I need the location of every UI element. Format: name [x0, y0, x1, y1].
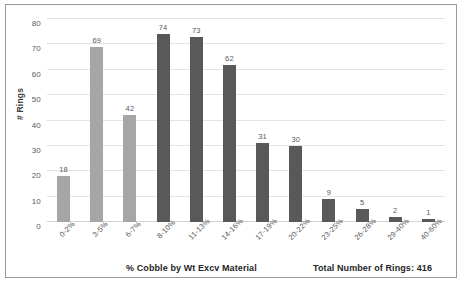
bar-value-label: 2: [393, 206, 397, 215]
plot-area: 01020304050607080 18694274736231309521: [47, 19, 445, 222]
bar-value-label: 74: [159, 23, 168, 32]
bar[interactable]: [123, 115, 136, 222]
total-rings-annotation: Total Number of Rings: 416: [313, 263, 432, 273]
figure-container: # Rings 01020304050607080 18694274736231…: [0, 0, 464, 291]
x-tick-slot: 3-5%: [80, 222, 113, 262]
x-tick-slot: 14-16%: [213, 222, 246, 262]
bar[interactable]: [90, 47, 103, 222]
x-axis-tick-label: 6-7%: [123, 220, 142, 239]
x-axis-tick-label: 3-5%: [90, 220, 109, 239]
bar-slot: 74: [147, 19, 180, 222]
bar-value-label: 31: [258, 132, 267, 141]
bar-value-label: 5: [360, 198, 364, 207]
bar-slot: 73: [180, 19, 213, 222]
chart-frame: # Rings 01020304050607080 18694274736231…: [5, 4, 457, 278]
bar-slot: 69: [80, 19, 113, 222]
bar-value-label: 18: [59, 165, 68, 174]
x-tick-slot: 26-28%: [346, 222, 379, 262]
x-tick-slot: 29-40%: [379, 222, 412, 262]
x-tick-slot: 23-25%: [312, 222, 345, 262]
x-axis-title: % Cobble by Wt Excv Material: [126, 263, 257, 273]
bar-value-label: 73: [192, 26, 201, 35]
bar-slot: 2: [379, 19, 412, 222]
bar-slot: 9: [312, 19, 345, 222]
bar-slot: 18: [47, 19, 80, 222]
bar-value-label: 42: [126, 104, 135, 113]
x-tick-slot: 40-60%: [412, 222, 445, 262]
bar-slot: 30: [279, 19, 312, 222]
bar-slot: 5: [346, 19, 379, 222]
bar[interactable]: [190, 37, 203, 222]
bar[interactable]: [157, 34, 170, 222]
bar-value-label: 30: [291, 135, 300, 144]
bar-value-label: 9: [327, 188, 331, 197]
bar[interactable]: [57, 176, 70, 222]
x-tick-slot: 8-10%: [147, 222, 180, 262]
x-axis-tick-labels: 0-2%3-5%6-7%8-10%11-13%14-16%17-19%20-22…: [47, 222, 445, 262]
y-axis-title: # Rings: [15, 88, 25, 120]
bar-value-label: 69: [92, 36, 101, 45]
bar[interactable]: [322, 199, 335, 222]
figure-caption: [6, 283, 458, 291]
bar-slot: 42: [113, 19, 146, 222]
bar-value-label: 62: [225, 54, 234, 63]
x-tick-slot: 0-2%: [47, 222, 80, 262]
bar[interactable]: [223, 65, 236, 222]
x-tick-slot: 11-13%: [180, 222, 213, 262]
bar-value-label: 1: [426, 208, 430, 217]
bar-slot: 1: [412, 19, 445, 222]
x-tick-slot: 17-19%: [246, 222, 279, 262]
x-tick-slot: 20-22%: [279, 222, 312, 262]
x-tick-slot: 6-7%: [113, 222, 146, 262]
bar[interactable]: [256, 143, 269, 222]
bar-series: 18694274736231309521: [47, 19, 445, 222]
bar-slot: 62: [213, 19, 246, 222]
bar[interactable]: [289, 146, 302, 222]
x-axis-tick-label: 8-10%: [155, 218, 177, 240]
bar-slot: 31: [246, 19, 279, 222]
x-axis-tick-label: 0-2%: [57, 220, 76, 239]
